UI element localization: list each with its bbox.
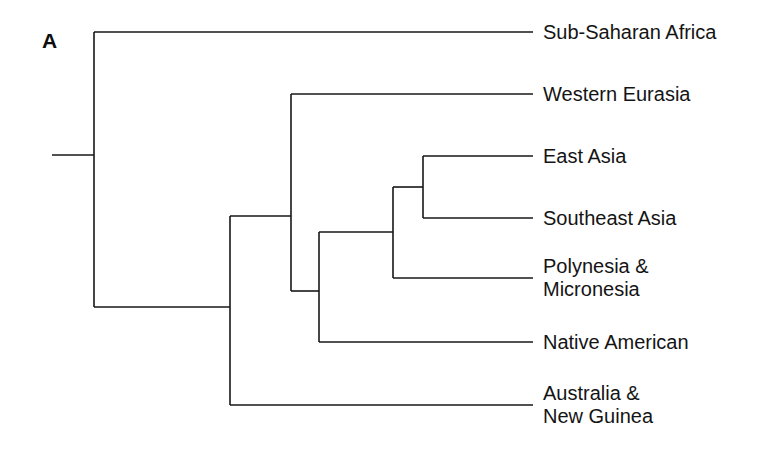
tip-label-southeast-asia: Southeast Asia bbox=[543, 207, 676, 230]
tree-internal-edges bbox=[52, 32, 423, 405]
tip-label-native-american: Native American bbox=[543, 331, 689, 354]
tip-label-line: New Guinea bbox=[543, 405, 653, 428]
tip-label-east-asia: East Asia bbox=[543, 145, 626, 168]
tip-label-line: Polynesia & bbox=[543, 255, 649, 278]
panel-label-a: A bbox=[42, 30, 58, 51]
tree-tip-branches bbox=[94, 32, 533, 405]
tip-label-line: Southeast Asia bbox=[543, 207, 676, 230]
tip-label-sub-saharan-africa: Sub-Saharan Africa bbox=[543, 21, 716, 44]
tip-label-line: East Asia bbox=[543, 145, 626, 168]
tip-label-western-eurasia: Western Eurasia bbox=[543, 83, 690, 106]
tip-label-line: Native American bbox=[543, 331, 689, 354]
tip-label-line: Micronesia bbox=[543, 278, 649, 301]
tip-label-line: Australia & bbox=[543, 382, 653, 405]
tip-label-line: Sub-Saharan Africa bbox=[543, 21, 716, 44]
tip-label-polynesia-micronesia: Polynesia &Micronesia bbox=[543, 255, 649, 301]
tip-label-australia-new-guinea: Australia &New Guinea bbox=[543, 382, 653, 428]
tip-label-line: Western Eurasia bbox=[543, 83, 690, 106]
phylogenetic-tree-figure: A Sub-Saharan AfricaWestern EurasiaEast … bbox=[0, 0, 761, 452]
